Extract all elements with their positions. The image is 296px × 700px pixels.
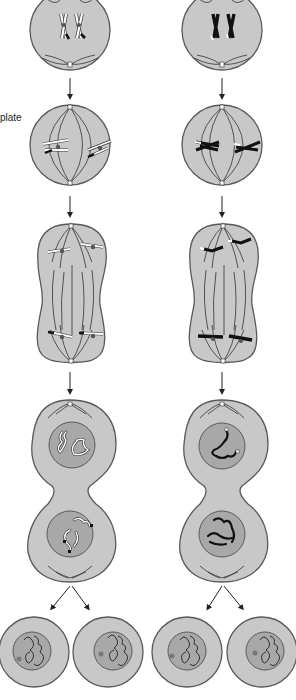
nucleolus (17, 657, 22, 662)
arrow-branch-right (72, 586, 88, 608)
arrow-branch-left (52, 586, 70, 608)
arrow-branch-right (224, 586, 242, 608)
nucleus (49, 422, 95, 468)
right-metaphase-cell (182, 105, 262, 185)
nucleolus (99, 652, 104, 657)
right-anaphase-cell (189, 224, 258, 363)
arrow-branch-left (208, 586, 222, 608)
left-metaphase-cell (30, 105, 111, 185)
left-telophase-cell (28, 400, 116, 582)
left-anaphase-cell (37, 224, 106, 363)
right-telophase-cell (180, 400, 268, 582)
nucleus (199, 511, 245, 557)
mitosis-diagram (0, 0, 296, 700)
daughter-cell (0, 617, 69, 687)
nucleolus (253, 651, 258, 656)
black-chromosome (198, 336, 223, 337)
daughter-cell (227, 617, 296, 687)
nucleolus (170, 654, 175, 659)
right-prophase-cell (182, 0, 262, 70)
daughter-cell (152, 617, 222, 687)
left-prophase-cell (30, 0, 110, 70)
daughter-cell (73, 617, 143, 687)
